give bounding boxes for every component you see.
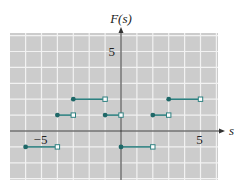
x-axis-arrow-icon <box>219 129 225 134</box>
closed-endpoint-dot <box>119 145 124 150</box>
open-endpoint-marker <box>71 113 75 117</box>
chart-canvas: −555sF(s) <box>0 0 241 191</box>
x-tick-label: −5 <box>34 132 48 147</box>
closed-endpoint-dot <box>23 145 28 150</box>
x-tick-label: 5 <box>196 132 203 147</box>
open-endpoint-marker <box>103 97 107 101</box>
open-endpoint-marker <box>55 145 59 149</box>
closed-endpoint-dot <box>103 113 108 118</box>
closed-endpoint-dot <box>71 97 76 102</box>
x-axis-label: s <box>229 123 234 138</box>
open-endpoint-marker <box>167 113 171 117</box>
closed-endpoint-dot <box>150 113 155 118</box>
open-endpoint-marker <box>198 97 202 101</box>
y-tick-label: 5 <box>109 44 116 59</box>
y-axis-label: F(s) <box>109 11 132 26</box>
open-endpoint-marker <box>119 113 123 117</box>
step-function-chart: −555sF(s) <box>0 0 241 191</box>
y-axis-arrow-icon <box>119 27 124 33</box>
closed-endpoint-dot <box>166 97 171 102</box>
closed-endpoint-dot <box>55 113 60 118</box>
open-endpoint-marker <box>151 145 155 149</box>
